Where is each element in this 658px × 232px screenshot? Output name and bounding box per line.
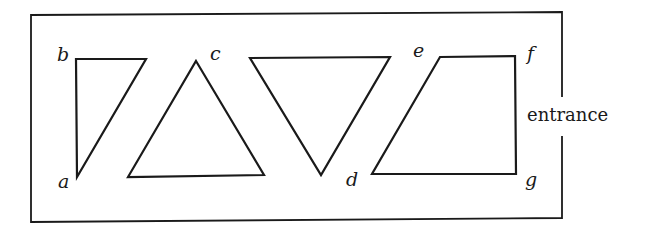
floor-plan-diagram: b a c d e f g entrance — [0, 0, 658, 232]
vertex-label-a: a — [58, 170, 69, 192]
inverted-triangle — [250, 57, 390, 175]
right-triangle — [76, 59, 146, 177]
vertex-label-b: b — [57, 43, 69, 65]
room-wall — [31, 12, 562, 222]
vertex-label-f: f — [525, 42, 537, 64]
upright-triangle — [128, 61, 264, 177]
vertex-label-e: e — [413, 39, 424, 61]
vertex-label-c: c — [210, 42, 221, 64]
vertex-label-g: g — [525, 168, 537, 190]
trapezoid — [372, 56, 516, 174]
entrance-label: entrance — [527, 104, 608, 125]
vertex-label-d: d — [346, 168, 358, 190]
